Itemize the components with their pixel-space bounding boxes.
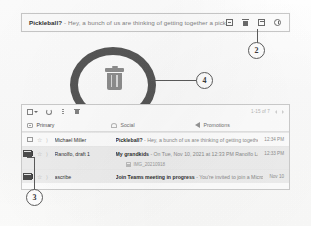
- message-header-bar[interactable]: Pickleball? - Hey, a bunch of us are thi…: [21, 13, 290, 32]
- inbox-toolbar: 1-15 of 7: [22, 105, 289, 118]
- star-icon[interactable]: ☆: [37, 174, 43, 180]
- row-checkbox[interactable]: [27, 137, 33, 143]
- tag-icon: [195, 122, 200, 128]
- delete-icon[interactable]: [242, 19, 249, 26]
- row-sender: Michael Miller: [55, 137, 107, 143]
- attachment-chip[interactable]: IMG_20210918: [126, 162, 165, 167]
- callout-3-leader-line-vertical: [34, 157, 35, 190]
- inbox-pagination: 1-15 of 7: [251, 109, 284, 114]
- tab-primary-label: Primary: [37, 122, 55, 128]
- star-icon[interactable]: ☆: [37, 137, 43, 143]
- row-snippet: - You're invited to join a Microsoft Tea…: [196, 174, 263, 180]
- message-subject: Pickleball?: [29, 19, 62, 26]
- row-body: Join Teams meeting in progress - You're …: [116, 174, 264, 180]
- attachment-icon: [126, 162, 131, 167]
- row-subject: Pickleball?: [116, 137, 143, 143]
- table-row[interactable]: ☆ ⟩ ascribe Join Teams meeting in progre…: [22, 169, 289, 183]
- pagination-range: 1-15 of 7: [251, 109, 270, 114]
- tab-promotions-label: Promotions: [204, 122, 230, 128]
- more-options-icon[interactable]: [60, 109, 66, 115]
- row-time: 12:33 PM: [264, 151, 284, 156]
- row-subject: My grandkids: [116, 151, 149, 157]
- tab-primary[interactable]: Primary: [27, 122, 111, 128]
- row-body: My grandkids - On Tue, Nov 10, 2021 at 1…: [116, 151, 259, 157]
- inbox-panel: 1-15 of 7 Primary Social Promotions ☆ ⟩ …: [21, 104, 290, 190]
- trash-icon: [105, 68, 124, 90]
- row-time: Nov 10: [269, 174, 284, 179]
- unread-envelope-icon: [23, 173, 32, 180]
- row-body: Pickleball? - Hey, a bunch of us are thi…: [116, 137, 259, 143]
- inbox-toolbar-left: [27, 109, 80, 115]
- callout-4-leader-line: [151, 80, 197, 81]
- row-snippet: - On Tue, Nov 10, 2021 at 12:33 PM Ranol…: [150, 151, 258, 157]
- message-snippet: Hey, a bunch of us are thinking of getti…: [68, 19, 226, 26]
- select-all-checkbox[interactable]: [27, 109, 33, 115]
- delete-icon[interactable]: [74, 109, 80, 115]
- row-attachment[interactable]: IMG_20210918: [22, 160, 289, 169]
- attachment-name: IMG_20210918: [134, 162, 166, 167]
- important-icon[interactable]: ⟩: [46, 151, 51, 157]
- archive-icon[interactable]: [226, 19, 233, 26]
- tab-social-label: Social: [121, 122, 135, 128]
- tab-promotions[interactable]: Promotions: [195, 122, 279, 128]
- tab-social[interactable]: Social: [111, 122, 195, 128]
- callout-3: 3: [26, 189, 43, 206]
- important-icon[interactable]: ⟩: [46, 174, 51, 180]
- inbox-tabs: Primary Social Promotions: [22, 118, 289, 132]
- refresh-icon[interactable]: [46, 109, 52, 115]
- chevron-down-icon[interactable]: [34, 111, 38, 113]
- previous-page-icon[interactable]: [275, 110, 277, 114]
- important-icon[interactable]: ⟩: [46, 137, 51, 143]
- row-sender: ascribe: [55, 174, 107, 180]
- callout-2-leader-line: [257, 29, 258, 43]
- people-icon: [111, 123, 117, 128]
- mark-unread-icon[interactable]: [258, 19, 265, 26]
- row-sender: Ranolfo, draft 1: [55, 151, 107, 157]
- message-separator: -: [64, 19, 66, 26]
- snooze-icon[interactable]: [274, 19, 281, 26]
- row-subject: Join Teams meeting in progress: [116, 174, 195, 180]
- message-actions: [226, 19, 281, 26]
- row-snippet: - Hey, a bunch of us are thinking of get…: [144, 137, 258, 143]
- callout-2: 2: [248, 42, 265, 59]
- inbox-icon: [27, 123, 33, 128]
- row-time: 12:34 PM: [264, 137, 284, 142]
- unread-envelope-icon: [23, 150, 32, 157]
- table-row[interactable]: ☆ ⟩ Ranolfo, draft 1 My grandkids - On T…: [22, 146, 289, 160]
- next-page-icon[interactable]: [282, 110, 284, 114]
- callout-4: 4: [196, 72, 213, 89]
- table-row[interactable]: ☆ ⟩ Michael Miller Pickleball? - Hey, a …: [22, 132, 289, 146]
- star-icon[interactable]: ☆: [37, 151, 43, 157]
